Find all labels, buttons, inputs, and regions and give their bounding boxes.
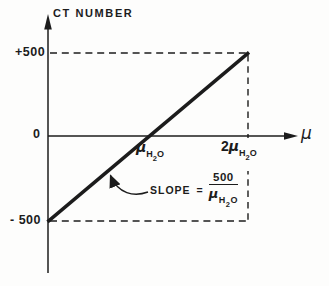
slope-equals: = (197, 184, 204, 196)
slope-numerator: 500 (209, 171, 238, 185)
mu-symbol: μ (229, 138, 239, 154)
y-tick-plus-500: +500 (15, 45, 45, 59)
y-tick-zero: 0 (33, 127, 40, 141)
mu-symbol: μ (209, 186, 219, 201)
mu-symbol: μ (136, 139, 146, 155)
x-tick-mu-h2o: μH2O (136, 139, 164, 163)
x-tick-2mu-h2o: 2μH2O (219, 138, 264, 171)
slope-leader-arrow-icon (111, 176, 149, 195)
slope-annotation: SLOPE = 500 μH2O (150, 171, 238, 209)
plot-canvas (0, 0, 329, 286)
y-tick-minus-500: - 500 (10, 213, 41, 227)
slope-fraction: 500 μH2O (209, 171, 238, 209)
y-axis-title: CT NUMBER (53, 7, 133, 19)
slope-word: SLOPE (150, 184, 191, 196)
x-axis-title: μ (301, 123, 312, 143)
ct-number-vs-mu-figure: CT NUMBER +500 0 - 500 μ μH2O 2μH2O SLOP… (0, 0, 329, 286)
y-axis-arrow-icon (44, 14, 52, 30)
slope-denominator: μH2O (209, 185, 238, 209)
x-axis-arrow-icon (284, 132, 298, 140)
